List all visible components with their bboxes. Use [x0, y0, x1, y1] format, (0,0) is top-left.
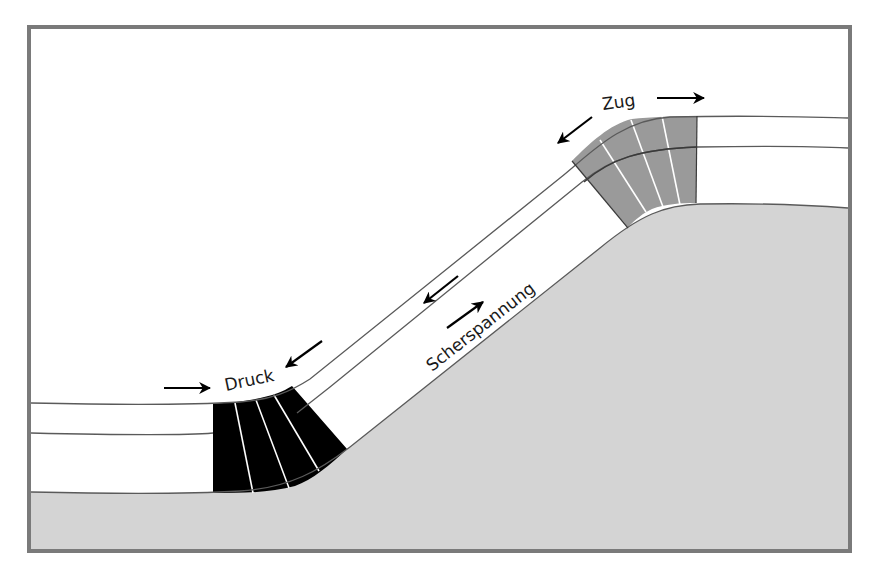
tension-label: Zug: [601, 90, 637, 114]
compression-arrow-right: [286, 341, 322, 367]
tension-arrow-left: [558, 117, 592, 143]
compression-label: Druck: [223, 365, 276, 395]
fold-stress-diagram: Druck Zug Scherspannung: [0, 0, 878, 586]
